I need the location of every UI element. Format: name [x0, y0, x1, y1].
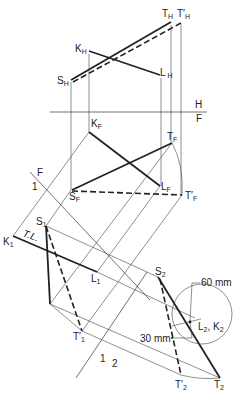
label-lf: LF — [161, 181, 171, 193]
label-tp2: T′2 — [175, 379, 187, 391]
label-fold-f: F — [196, 113, 202, 124]
label-l1: L1 — [91, 273, 101, 285]
label-th: TH — [162, 8, 173, 20]
line-st-prime-1 — [46, 226, 82, 331]
label-60mm: 60 mm — [201, 277, 232, 288]
projectors-h-f — [71, 24, 181, 195]
label-tph: T′H — [177, 8, 190, 20]
point-l2-k2 — [189, 321, 192, 324]
label-fold-1b: 1 — [100, 353, 106, 364]
label-l2-k2: L2, K2 — [198, 321, 224, 333]
label-fold-f-aux: F — [37, 167, 43, 178]
label-t2: T2 — [214, 379, 224, 391]
label-kh: KH — [75, 43, 87, 55]
label-kf: KF — [91, 118, 102, 130]
label-tp1: T′1 — [73, 331, 85, 343]
label-tf: TF — [167, 131, 177, 143]
label-30mm: 30 mm — [140, 333, 171, 344]
label-s2: S2 — [155, 266, 166, 278]
geometry-drawing: TH T′H KH LH SH H F KF TF LF SF T′F F 1 … — [0, 0, 240, 394]
label-k1: K1 — [3, 236, 14, 248]
label-sh: SH — [57, 75, 69, 87]
label-fold-2: 2 — [112, 358, 118, 369]
line-st-prime-2 — [160, 279, 181, 375]
projectors-1-2 — [46, 226, 220, 378]
label-s1: S1 — [36, 216, 47, 228]
diagram-canvas: TH T′H KH LH SH H F KF TF LF SF T′F F 1 … — [0, 0, 240, 394]
label-tpf: T′F — [185, 190, 197, 202]
label-fold-h: H — [195, 99, 202, 110]
label-fold-1: 1 — [32, 181, 38, 192]
label-sf: SF — [69, 191, 80, 203]
